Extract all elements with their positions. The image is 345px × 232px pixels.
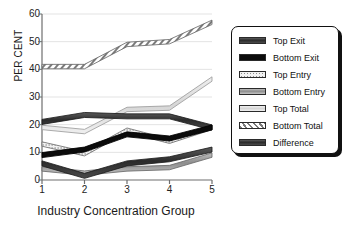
- legend-swatch-icon: [239, 54, 266, 61]
- x-tick-label: 3: [117, 184, 137, 195]
- legend-item-label: Bottom Exit: [273, 53, 319, 63]
- x-tick-label: 2: [75, 184, 95, 195]
- legend-item-label: Bottom Total: [273, 121, 323, 131]
- series-bottom-total: [42, 20, 212, 69]
- legend-swatch-icon: [239, 88, 266, 95]
- legend-item-bottom-total[interactable]: Bottom Total: [232, 117, 338, 134]
- legend-swatch-icon: [239, 122, 266, 129]
- legend-item-top-entry[interactable]: Top Entry: [232, 66, 338, 83]
- legend-item-label: Bottom Entry: [273, 87, 325, 97]
- legend-swatch-icon: [239, 105, 266, 112]
- legend-swatch-icon: [239, 71, 266, 78]
- legend-item-label: Top Entry: [273, 70, 311, 80]
- chart-figure: PER CENT 0102030405060: [0, 0, 345, 232]
- legend-item-bottom-entry[interactable]: Bottom Entry: [232, 83, 338, 100]
- legend-swatch-icon: [239, 139, 266, 146]
- x-tick-label: 5: [202, 184, 222, 195]
- x-tick-label: 1: [32, 184, 52, 195]
- data-series-layer: [42, 20, 212, 178]
- legend-item-label: Difference: [273, 138, 314, 148]
- legend-swatch-icon: [239, 37, 266, 44]
- chart-legend: Top ExitBottom ExitTop EntryBottom Entry…: [231, 26, 339, 154]
- x-tick-label: 4: [160, 184, 180, 195]
- legend-item-top-total[interactable]: Top Total: [232, 100, 338, 117]
- x-axis-ticks: 12345: [0, 184, 232, 198]
- plot-area: PER CENT 0102030405060: [0, 0, 232, 232]
- legend-item-top-exit[interactable]: Top Exit: [232, 32, 338, 49]
- legend-item-label: Top Exit: [273, 36, 305, 46]
- legend-item-difference[interactable]: Difference: [232, 134, 338, 151]
- x-axis-title: Industry Concentration Group: [0, 204, 232, 218]
- series-top-total: [42, 77, 212, 134]
- legend-item-label: Top Total: [273, 104, 309, 114]
- legend-item-bottom-exit[interactable]: Bottom Exit: [232, 49, 338, 66]
